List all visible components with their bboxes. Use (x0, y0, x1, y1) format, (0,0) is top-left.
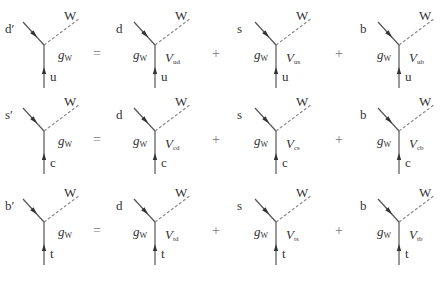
row3-term1-ckm-label: Vtd (165, 228, 178, 243)
row3-term1-incoming-label: d (116, 199, 123, 212)
row1-lhs-outgoing-label: u (50, 70, 57, 83)
arrow-icon (274, 153, 278, 160)
plus-sign: + (335, 224, 343, 238)
row3-term1-coupling-label: gW (133, 225, 147, 240)
row1-lhs-coupling-label: gW (58, 48, 72, 63)
row1-term3-incoming-label: b (360, 22, 367, 35)
row3-term2-ckm-label: Vts (286, 228, 299, 243)
row2-term2-incoming-label: s (237, 108, 242, 121)
row1-lhs-boson-label: W (64, 9, 76, 22)
arrow-icon (153, 153, 157, 160)
row2-term1-incoming-label: d (116, 108, 123, 121)
row1-term2-ckm-label: Vus (286, 51, 300, 66)
arrow-icon (153, 67, 157, 74)
row1-term1-outgoing-label: u (161, 70, 168, 83)
arrow-icon (153, 244, 157, 251)
row1-term2-incoming-label: s (237, 22, 242, 35)
equals-sign: = (93, 47, 101, 61)
row3-term2-incoming-label: s (237, 199, 242, 212)
arrow-icon (397, 153, 401, 160)
arrow-icon (42, 153, 46, 160)
row1-term3-boson-label: W (419, 9, 431, 22)
row1-lhs-incoming-label: d′ (5, 22, 14, 35)
row2-term1-coupling-label: gW (133, 134, 147, 149)
arrow-icon (274, 244, 278, 251)
row3-term3-incoming-label: b (360, 199, 367, 212)
row2-lhs-incoming-label: s′ (5, 108, 13, 121)
row3-term1-outgoing-label: t (161, 247, 165, 260)
equals-sign: = (93, 133, 101, 147)
row2-lhs-coupling-label: gW (58, 134, 72, 149)
row2-term3-boson-label: W (419, 95, 431, 108)
row1-term1-ckm-label: Vud (165, 51, 180, 66)
equals-sign: = (93, 224, 101, 238)
row3-lhs-incoming-label: b′ (5, 199, 14, 212)
row1-term2-boson-label: W (296, 9, 308, 22)
row2-term2-ckm-label: Vcs (286, 137, 300, 152)
plus-sign: + (335, 47, 343, 61)
plus-sign: + (212, 224, 220, 238)
row2-lhs-outgoing-label: c (50, 156, 56, 169)
row2-term3-outgoing-label: c (405, 156, 411, 169)
row1-term3-ckm-label: Vub (409, 51, 424, 66)
row2-term3-incoming-label: b (360, 108, 367, 121)
row3-term3-outgoing-label: t (405, 247, 409, 260)
row2-term3-coupling-label: gW (377, 134, 391, 149)
arrow-icon (397, 67, 401, 74)
arrow-icon (42, 67, 46, 74)
row1-term3-coupling-label: gW (377, 48, 391, 63)
row1-term3-outgoing-label: u (405, 70, 412, 83)
plus-sign: + (335, 133, 343, 147)
row3-lhs-boson-label: W (64, 186, 76, 199)
row2-term1-boson-label: W (175, 95, 187, 108)
plus-sign: + (212, 47, 220, 61)
row2-term2-outgoing-label: c (282, 156, 288, 169)
row3-term3-ckm-label: Vtb (409, 228, 422, 243)
row2-term2-coupling-label: gW (254, 134, 268, 149)
arrow-icon (274, 67, 278, 74)
row2-term3-ckm-label: Vcb (409, 137, 424, 152)
row1-term1-boson-label: W (175, 9, 187, 22)
row3-term2-outgoing-label: t (282, 247, 286, 260)
arrow-icon (397, 244, 401, 251)
plus-sign: + (212, 133, 220, 147)
row3-term1-boson-label: W (175, 186, 187, 199)
row1-term1-incoming-label: d (116, 22, 123, 35)
row2-term1-ckm-label: Vcd (165, 137, 180, 152)
row3-lhs-coupling-label: gW (58, 225, 72, 240)
row1-term2-outgoing-label: u (282, 70, 289, 83)
row3-term3-coupling-label: gW (377, 225, 391, 240)
row2-term1-outgoing-label: c (161, 156, 167, 169)
row3-term3-boson-label: W (419, 186, 431, 199)
row1-term1-coupling-label: gW (133, 48, 147, 63)
arrow-icon (42, 244, 46, 251)
row1-term2-coupling-label: gW (254, 48, 268, 63)
row2-term2-boson-label: W (296, 95, 308, 108)
row3-term2-coupling-label: gW (254, 225, 268, 240)
row2-lhs-boson-label: W (64, 95, 76, 108)
row3-lhs-outgoing-label: t (50, 247, 54, 260)
row3-term2-boson-label: W (296, 186, 308, 199)
